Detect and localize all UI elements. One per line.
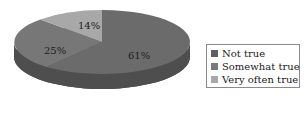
- label-somewhat-true: 25%: [44, 45, 66, 56]
- legend-swatch-somewhat-true: [211, 63, 218, 70]
- legend-item-somewhat-true: Somewhat true: [211, 60, 295, 73]
- legend-swatch-not-true: [211, 50, 218, 57]
- legend: Not true Somewhat true Very often true: [206, 44, 300, 88]
- label-very-often-true: 14%: [78, 20, 100, 31]
- legend-item-not-true: Not true: [211, 47, 295, 60]
- legend-label: Somewhat true: [222, 61, 300, 72]
- label-not-true: 61%: [128, 50, 150, 61]
- legend-swatch-very-often-true: [211, 76, 218, 83]
- legend-label: Not true: [222, 48, 265, 59]
- legend-label: Very often true: [222, 74, 298, 85]
- legend-item-very-often-true: Very often true: [211, 73, 295, 86]
